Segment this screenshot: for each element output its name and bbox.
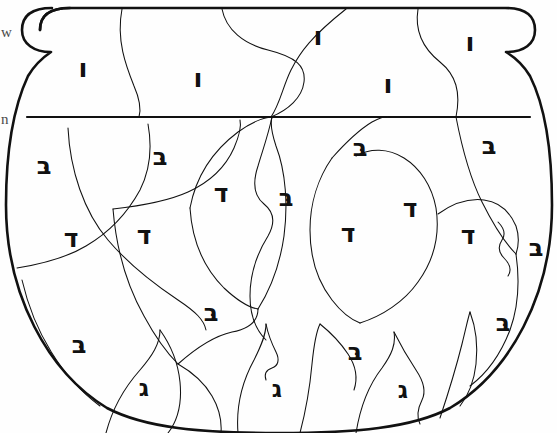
region-letter-dalet-6: ד — [461, 223, 476, 248]
region-letter-vav-2: ו — [194, 65, 203, 91]
region-letter-gimel-2: ג — [272, 378, 282, 401]
region-letter-vav-5: ו — [466, 29, 475, 55]
region-letter-bet-10: ּב — [496, 311, 511, 335]
region-letter-bet-5: ּב — [482, 134, 497, 158]
region-letter-bet-8: ּב — [72, 333, 87, 357]
region-letter-bet-2: ּב — [153, 145, 168, 169]
region-letter-vav-3: ו — [314, 23, 323, 49]
region-letter-dalet-2: ד — [137, 223, 152, 248]
worksheet-page: w n וווווּבּבּבּבּבּבּבּבּבּבדדדדדדגגג — [0, 0, 557, 433]
region-letter-vav-4: ו — [384, 71, 393, 97]
region-letter-vav-1: ו — [79, 55, 88, 81]
region-letter-bet-9: ּב — [348, 340, 363, 364]
region-letter-bet-4: ּב — [353, 136, 368, 160]
region-letter-dalet-1: ד — [64, 226, 79, 251]
region-letter-gimel-1: ג — [139, 377, 149, 400]
left-margin-fragment-lower: n — [1, 111, 9, 128]
region-letter-gimel-3: ג — [398, 379, 408, 402]
region-letter-dalet-4: ד — [341, 221, 356, 246]
region-letter-bet-1: ּב — [37, 154, 52, 178]
region-letter-bet-7: ּב — [204, 301, 219, 325]
region-letter-bet-3: ּב — [279, 186, 294, 210]
region-letter-dalet-5: ד — [403, 196, 418, 221]
region-letter-bet-6: ּב — [529, 236, 544, 260]
region-letter-dalet-3: ד — [214, 181, 229, 206]
left-margin-fragment-top: w — [1, 24, 12, 41]
